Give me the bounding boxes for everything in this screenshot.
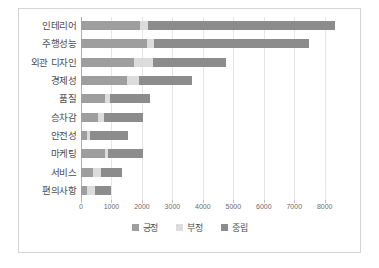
bar-segment-중립[interactable]: [139, 76, 192, 85]
bar-row[interactable]: [81, 145, 343, 163]
legend-label: 부정: [187, 221, 203, 234]
x-axis: 010002000300040005000600070008000: [81, 200, 343, 216]
x-tick-label: 4000: [195, 203, 211, 210]
x-tick-label: 1000: [104, 203, 120, 210]
chart-legend: 긍정부정중립: [19, 221, 360, 234]
bar-segment-부정[interactable]: [147, 39, 155, 48]
bar-segment-긍정[interactable]: [81, 39, 147, 48]
category-axis: 인테리어주행성능외관 디자인경제성품질승차감안전성마케팅서비스편의사항: [19, 17, 81, 200]
x-tick-label: 2000: [134, 203, 150, 210]
bar-segment-중립[interactable]: [108, 149, 143, 158]
legend-label: 중립: [232, 221, 248, 234]
bar-row[interactable]: [81, 72, 343, 90]
plot-area: [81, 17, 343, 200]
legend-swatch-icon: [176, 224, 183, 231]
category-label: 안전성: [51, 127, 77, 145]
bar-segment-중립[interactable]: [104, 113, 144, 122]
chart-plot-wrapper: 인테리어주행성능외관 디자인경제성품질승차감안전성마케팅서비스편의사항 0100…: [19, 9, 360, 252]
bar-segment-부정[interactable]: [134, 58, 152, 67]
category-label: 편의사항: [42, 182, 77, 200]
category-label: 인테리어: [42, 17, 77, 35]
bar-row[interactable]: [81, 90, 343, 108]
legend-item[interactable]: 긍정: [132, 221, 159, 234]
bar-row[interactable]: [81, 17, 343, 35]
legend-swatch-icon: [132, 224, 139, 231]
x-tick-label: 6000: [256, 203, 272, 210]
bar-segment-긍정[interactable]: [81, 76, 127, 85]
bar-segment-부정[interactable]: [93, 168, 101, 177]
legend-item[interactable]: 중립: [221, 221, 248, 234]
bar-row[interactable]: [81, 182, 343, 200]
bar-segment-중립[interactable]: [153, 58, 226, 67]
bar-segment-긍정[interactable]: [81, 94, 105, 103]
bar-segment-긍정[interactable]: [81, 58, 134, 67]
bar-segment-중립[interactable]: [101, 168, 122, 177]
x-tick-label: 8000: [317, 203, 333, 210]
x-tick-label: 5000: [226, 203, 242, 210]
bar-segment-긍정[interactable]: [81, 149, 105, 158]
bar-row[interactable]: [81, 127, 343, 145]
chart-frame: 인테리어주행성능외관 디자인경제성품질승차감안전성마케팅서비스편의사항 0100…: [18, 8, 361, 253]
category-label: 외관 디자인: [31, 54, 77, 72]
bar-segment-중립[interactable]: [154, 39, 309, 48]
category-label: 주행성능: [42, 35, 77, 53]
category-label: 승차감: [51, 109, 77, 127]
bar-segment-부정[interactable]: [127, 76, 139, 85]
bar-segment-부정[interactable]: [87, 186, 95, 195]
bar-row[interactable]: [81, 164, 343, 182]
bar-segment-긍정[interactable]: [81, 113, 98, 122]
bar-row[interactable]: [81, 109, 343, 127]
bar-segment-긍정[interactable]: [81, 168, 93, 177]
category-label: 서비스: [51, 164, 77, 182]
bar-segment-긍정[interactable]: [81, 21, 140, 30]
category-label: 품질: [59, 90, 77, 108]
x-tick-label: 0: [79, 203, 83, 210]
bar-segment-중립[interactable]: [148, 21, 335, 30]
bar-segment-부정[interactable]: [140, 21, 148, 30]
legend-item[interactable]: 부정: [176, 221, 203, 234]
bar-row[interactable]: [81, 35, 343, 53]
bar-row[interactable]: [81, 54, 343, 72]
category-label: 마케팅: [51, 145, 77, 163]
legend-swatch-icon: [221, 224, 228, 231]
bar-segment-중립[interactable]: [95, 186, 112, 195]
bar-segment-중립[interactable]: [90, 131, 128, 140]
bar-segment-중립[interactable]: [110, 94, 150, 103]
x-tick-label: 3000: [165, 203, 181, 210]
legend-label: 긍정: [143, 221, 159, 234]
x-tick-label: 7000: [286, 203, 302, 210]
category-label: 경제성: [51, 72, 77, 90]
